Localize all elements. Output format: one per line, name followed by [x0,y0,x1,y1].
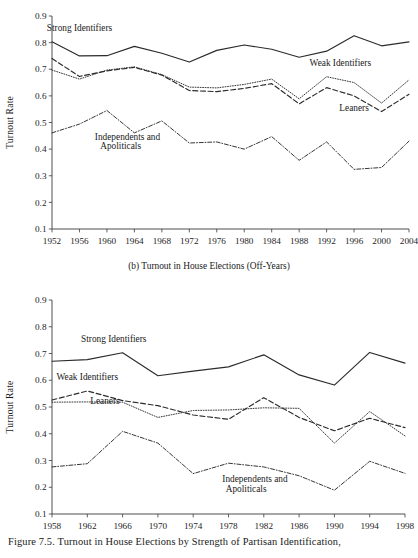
x-tick-label: 1958 [43,521,62,531]
chart-panel-b: 0.10.20.30.40.50.60.70.80.91958196219661… [0,292,418,535]
x-tick-label: 1986 [290,521,309,531]
series-annotation: Leaners [339,103,369,113]
x-tick-label: 1952 [43,236,62,246]
series-annotation: Weak Identifiers [57,372,119,382]
y-axis-title: Turnout Rate [4,381,15,434]
y-tick-label: 0.9 [35,11,47,21]
y-tick-label: 0.1 [35,509,47,519]
y-axis-title: Turnout Rate [4,96,15,149]
turnout-presidential-years-chart: 0.10.20.30.40.50.60.70.80.91952195619601… [0,0,418,252]
series-annotation: Apoliticals [226,484,267,494]
x-tick-label: 1988 [290,236,309,246]
series-annotation: Independents and [222,474,288,484]
x-tick-label: 2000 [372,236,391,246]
x-tick-label: 1984 [263,236,282,246]
y-tick-label: 0.6 [35,375,47,385]
x-tick-label: 1994 [361,521,380,531]
y-tick-label: 0.2 [35,482,47,492]
x-tick-label: 2004 [400,236,418,246]
x-tick-label: 1976 [208,236,227,246]
y-tick-label: 0.3 [35,171,47,181]
x-tick-label: 1964 [125,236,144,246]
series-line-weak-identifiers [52,67,409,103]
panel-b-subtitle: (b) Turnout in House Elections (Off-Year… [0,261,418,271]
y-tick-label: 0.4 [35,429,47,439]
x-tick-label: 1970 [149,521,168,531]
y-tick-label: 0.2 [35,198,47,208]
series-annotation: Strong Identifiers [47,23,113,33]
figure-caption: Figure 7.5. Turnout in House Elections b… [8,535,412,548]
y-tick-label: 0.5 [35,118,47,128]
x-tick-label: 1962 [78,521,97,531]
series-annotation: Leaners [90,396,120,406]
series-annotation: Weak Identifiers [310,58,372,68]
y-tick-label: 0.6 [35,91,47,101]
x-tick-label: 1996 [345,236,364,246]
chart-panel-a: 0.10.20.30.40.50.60.70.80.91952195619601… [0,0,418,252]
x-tick-label: 1978 [219,521,238,531]
x-tick-label: 1956 [70,236,89,246]
x-tick-label: 1960 [98,236,117,246]
figure-root: 0.10.20.30.40.50.60.70.80.91952195619601… [0,0,418,558]
x-tick-label: 1974 [184,521,203,531]
x-tick-label: 1980 [235,236,254,246]
y-tick-label: 0.8 [35,38,47,48]
y-tick-label: 0.3 [35,456,47,466]
x-tick-label: 1992 [317,236,336,246]
y-tick-label: 0.7 [35,64,47,74]
series-line-weak-identifiers [52,402,405,443]
x-tick-label: 1972 [180,236,199,246]
series-annotation: Strong Identifiers [81,334,147,344]
series-annotation: Apoliticals [100,141,141,151]
x-tick-label: 1966 [113,521,132,531]
x-tick-label: 1982 [255,521,274,531]
y-tick-label: 0.8 [35,322,47,332]
y-tick-label: 0.5 [35,402,47,412]
x-tick-label: 1998 [396,521,415,531]
turnout-off-years-chart: 0.10.20.30.40.50.60.70.80.91958196219661… [0,292,418,535]
y-tick-label: 0.1 [35,224,47,234]
y-tick-label: 0.4 [35,144,47,154]
y-tick-label: 0.9 [35,295,47,305]
x-tick-label: 1990 [325,521,344,531]
y-tick-label: 0.7 [35,349,47,359]
x-tick-label: 1968 [153,236,172,246]
